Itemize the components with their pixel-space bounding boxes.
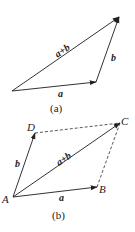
caption-a: (a) xyxy=(50,102,63,115)
vertex-label-b: B xyxy=(99,183,106,195)
vector-a-arrow xyxy=(12,82,96,91)
figure-b-parallelogram-rule: D C A B b a+b a (b) xyxy=(1,115,129,222)
label-b-b: b xyxy=(15,158,20,169)
label-a-a: a xyxy=(58,88,63,99)
label-b-a: b xyxy=(111,52,116,63)
vector-addition-diagram: a+b b a (a) D C A B b a+b a (b) xyxy=(0,0,135,232)
label-sum-b: a+b xyxy=(54,150,73,168)
vertex-label-c: C xyxy=(121,115,129,127)
label-a-b: a xyxy=(59,192,64,203)
caption-b: (b) xyxy=(52,209,65,222)
vector-b-arrow xyxy=(96,17,119,82)
figure-a-triangle-rule: a+b b a (a) xyxy=(12,17,119,115)
label-sum-a: a+b xyxy=(53,42,72,60)
vertex-label-d: D xyxy=(26,121,35,133)
dashed-edge-bc xyxy=(97,123,120,187)
vertex-label-a: A xyxy=(1,193,9,205)
